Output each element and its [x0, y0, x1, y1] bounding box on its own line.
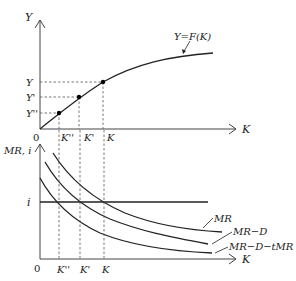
curve-mr-label: MR	[213, 213, 232, 224]
mr-d-tmr-label-leader	[215, 247, 228, 253]
interest-rate-label: i	[27, 196, 31, 209]
curve-mr-d-tmr-label: MR−D−tMR	[228, 241, 294, 252]
y-tick-y: Y	[26, 77, 34, 88]
bottom-x-axis-label: K	[241, 253, 251, 266]
bottom-x-tick-k-prime: K'	[79, 264, 90, 275]
point-k-double-prime	[57, 111, 61, 115]
top-x-axis-label: K	[241, 123, 251, 136]
bottom-x-tick-k: K	[101, 264, 110, 275]
x-tick-k-prime: K'	[83, 132, 94, 143]
bottom-x-tick-k-double-prime: K''	[56, 264, 70, 275]
curve-label-arrow-icon	[182, 49, 186, 54]
economics-diagram: Y K 0 Y=F(K) Y Y' Y'' K'' K' K MR, i K 0	[0, 0, 296, 281]
point-k-prime	[77, 95, 81, 99]
bottom-y-axis-label: MR, i	[3, 145, 31, 156]
x-tick-k-double-prime: K''	[60, 132, 74, 143]
point-k	[101, 80, 105, 84]
production-function-curve	[40, 53, 213, 129]
bottom-origin-label: 0	[34, 263, 40, 274]
top-panel: Y K 0 Y=F(K) Y Y' Y'' K'' K' K	[25, 11, 251, 143]
top-y-axis-label: Y	[25, 11, 34, 24]
mr-label-leader	[203, 218, 213, 228]
y-tick-y-double-prime: Y''	[26, 108, 38, 119]
production-function-label: Y=F(K)	[174, 31, 211, 42]
y-tick-y-prime: Y'	[26, 92, 35, 103]
top-origin-label: 0	[33, 132, 39, 143]
curve-mr-d-label: MR−D	[232, 226, 267, 237]
bottom-panel: MR, i K 0 i MR MR−D MR−D−tMR K'' K' K	[3, 130, 294, 275]
x-tick-k: K	[106, 132, 115, 143]
